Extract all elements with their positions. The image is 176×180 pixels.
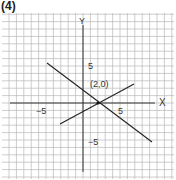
x-axis-label: X [159,98,166,108]
x-tick-neg5: −5 [36,107,46,116]
point-label: (2,0) [90,80,109,89]
y-axis-label: Y [79,17,85,26]
x-tick-pos5: 5 [118,107,123,116]
y-tick-pos5: 5 [88,62,93,71]
intersection-point [96,101,99,104]
grid-lines [2,13,174,179]
axes [10,25,155,172]
y-tick-neg5: −5 [88,138,98,147]
coordinate-grid-figure [0,0,176,180]
